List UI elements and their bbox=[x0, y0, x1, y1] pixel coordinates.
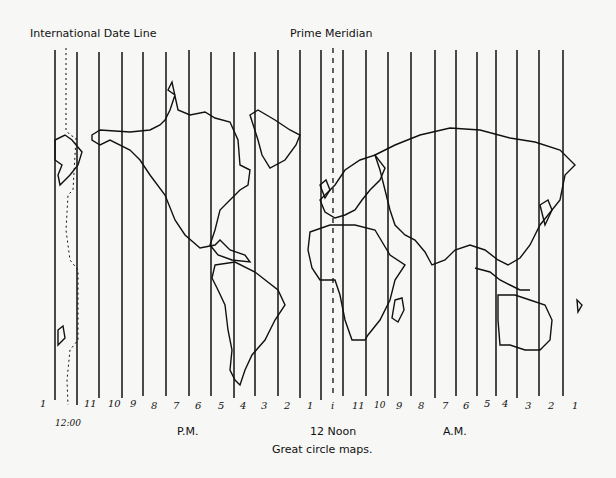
new-zealand bbox=[577, 300, 582, 312]
madagascar bbox=[392, 298, 404, 322]
pm-hour-11: 11 bbox=[84, 398, 97, 409]
greenland bbox=[250, 110, 300, 168]
am-hour-5: 5 bbox=[484, 398, 490, 409]
africa bbox=[308, 225, 405, 340]
caption: Great circle maps. bbox=[272, 443, 373, 456]
pm-hour-7: 7 bbox=[173, 400, 179, 411]
pm-label: P.M. bbox=[177, 425, 198, 438]
time-zone-lines bbox=[55, 50, 563, 405]
continents bbox=[55, 82, 582, 385]
am-hour-11: 11 bbox=[352, 400, 365, 411]
pm-hour-5: 5 bbox=[218, 400, 224, 411]
am-hour-9: 9 bbox=[396, 400, 402, 411]
am-hour-6: 6 bbox=[463, 400, 469, 411]
alaska bbox=[55, 135, 82, 185]
japan bbox=[540, 200, 552, 225]
noon-tick: i bbox=[331, 400, 334, 411]
pm-hour-3: 3 bbox=[261, 400, 267, 411]
south-america bbox=[212, 262, 285, 385]
pm-hour-9: 9 bbox=[130, 398, 136, 409]
pm-hour-8: 8 bbox=[151, 400, 157, 411]
pm-hour-10: 10 bbox=[108, 398, 121, 409]
indonesia bbox=[475, 268, 530, 290]
am-hour-10: 10 bbox=[374, 400, 385, 410]
pm-hour-1: 1 bbox=[307, 400, 313, 411]
am-hour-4: 4 bbox=[502, 398, 508, 409]
noon-label: 12 Noon bbox=[310, 425, 356, 438]
am-hour-2: 2 bbox=[548, 400, 554, 411]
europe bbox=[320, 155, 385, 218]
am-hour-1: 1 bbox=[572, 400, 578, 411]
hour-left-edge: 1 bbox=[40, 398, 46, 409]
am-label: A.M. bbox=[443, 425, 467, 438]
am-hour-7: 7 bbox=[442, 400, 448, 411]
hawaii bbox=[58, 326, 65, 345]
am-hour-8: 8 bbox=[418, 400, 424, 411]
australia bbox=[498, 295, 552, 350]
date-line bbox=[66, 48, 78, 405]
north-america bbox=[92, 82, 250, 262]
pm-hour-6: 6 bbox=[195, 400, 201, 411]
pm-hour-2: 2 bbox=[284, 400, 290, 411]
pm-hour-4: 4 bbox=[240, 400, 246, 411]
asia bbox=[375, 128, 575, 265]
am-hour-3: 3 bbox=[525, 400, 531, 411]
date-line-time: 12:00 bbox=[55, 418, 81, 428]
